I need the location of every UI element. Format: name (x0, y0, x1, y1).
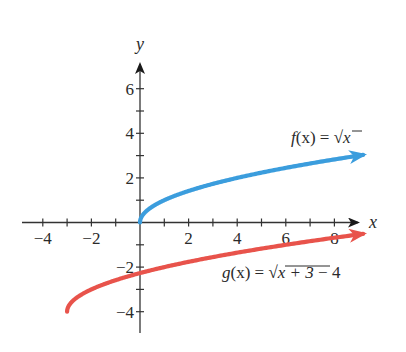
y-tick-label: 4 (126, 124, 135, 143)
y-tick-label: 2 (126, 169, 135, 188)
axes: −4−22468 642−2−4 x y (22, 34, 377, 333)
x-axis-label: x (368, 212, 377, 232)
y-tick-labels: 642−2−4 (116, 80, 135, 322)
x-tick-label: −4 (34, 229, 53, 248)
f-label: f(x) = √x (291, 128, 351, 147)
x-tick-label: 4 (233, 229, 242, 248)
y-axis-label: y (134, 34, 144, 54)
series-labels: f(x) = √x g(x) = √x + 3 − 4 (222, 128, 362, 282)
y-tick-label: −4 (116, 303, 135, 322)
y-tick-label: 6 (126, 80, 135, 99)
f-curve (140, 155, 363, 223)
x-tick-label: −2 (82, 229, 100, 248)
chart-plot-area: −4−22468 642−2−4 x y f(x) = √x g(x) = √x… (0, 0, 406, 352)
x-tick-label: 2 (184, 229, 193, 248)
curves (67, 155, 363, 312)
f-radicand: x (342, 128, 351, 147)
